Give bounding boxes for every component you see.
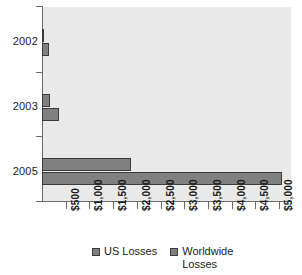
legend-item-worldwide-losses: Worldwide Losses — [170, 245, 244, 271]
category-label: 2002 — [13, 35, 38, 47]
legend-label: Worldwide Losses — [182, 245, 244, 271]
category-label: 2005 — [13, 165, 38, 177]
x-axis-tick — [66, 202, 67, 209]
x-axis-tick — [232, 202, 233, 209]
x-axis-tick-label: $2,000 — [141, 179, 152, 211]
bar — [42, 108, 59, 121]
legend-swatch-icon — [92, 248, 100, 256]
x-axis-tick-label: $1,500 — [117, 179, 128, 211]
x-axis-tick — [184, 202, 185, 209]
category-label: 2003 — [13, 100, 38, 112]
x-axis-tick-label: $3,500 — [212, 179, 223, 211]
y-axis-end-tick — [36, 6, 43, 7]
x-axis-tick-label: $4,000 — [236, 179, 247, 211]
x-axis-tick — [208, 202, 209, 209]
x-axis-tick-label: $2,500 — [165, 179, 176, 211]
x-axis-tick — [137, 202, 138, 209]
x-axis-tick-label: $3,000 — [188, 179, 199, 211]
legend-label: US Losses — [104, 245, 157, 258]
x-axis-tick — [113, 202, 114, 209]
bar-chart: 200220032005 $500$1,000$1,500$2,000$2,50… — [0, 0, 302, 275]
bar — [42, 43, 49, 56]
legend-item-us-losses: US Losses — [92, 245, 157, 258]
chart-legend: US Losses Worldwide Losses — [92, 245, 244, 271]
x-axis-tick — [255, 202, 256, 209]
x-axis-tick-label: $500 — [70, 188, 81, 211]
x-axis-tick — [161, 202, 162, 209]
y-axis-tick — [36, 136, 43, 137]
y-axis-end-tick — [36, 201, 43, 202]
x-axis-tick-label: $4,500 — [259, 179, 270, 211]
bar — [42, 94, 50, 107]
bar — [42, 29, 44, 42]
x-axis-tick-label: $5,000 — [283, 179, 294, 211]
legend-swatch-icon — [170, 248, 178, 256]
x-axis-tick — [279, 202, 280, 209]
bar — [42, 158, 131, 171]
x-axis-tick-label: $1,000 — [93, 179, 104, 211]
x-axis-tick — [89, 202, 90, 209]
y-axis-tick — [36, 72, 43, 73]
